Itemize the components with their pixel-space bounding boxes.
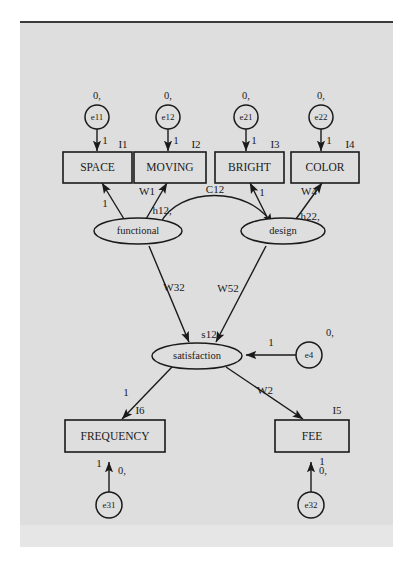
index-label-color: I4 <box>345 138 355 150</box>
edge-functional-design-covariance <box>160 196 272 225</box>
path-label-functional-to-satisfaction: W32 <box>163 281 184 293</box>
loading-label-e21: 1 <box>251 134 257 146</box>
intercept-label-design: h22, <box>300 210 320 222</box>
error-label-e12: e12 <box>162 112 175 122</box>
error-label-e4: e4 <box>305 350 314 360</box>
mean-label-e4: 0, <box>326 327 334 338</box>
index-label-moving: I2 <box>191 138 200 150</box>
mean-label-e32: 0, <box>319 465 327 476</box>
mean-label-e31: 0, <box>118 465 126 476</box>
edge-design-to-satisfaction <box>216 246 266 342</box>
latent-label-design: design <box>269 225 297 236</box>
intercept-label-functional: h12, <box>152 204 172 216</box>
loading-label-e31: 1 <box>96 457 102 469</box>
error-label-e11: e11 <box>91 112 104 122</box>
mean-label-e11: 0, <box>93 90 101 101</box>
index-label-fee: I5 <box>332 404 342 416</box>
observed-label-frequency: FREQUENCY <box>80 430 150 442</box>
observed-label-space: SPACE <box>80 161 115 173</box>
observed-label-color: COLOR <box>306 161 345 173</box>
edge-functional-to-satisfaction <box>149 246 189 342</box>
path-label-design-to-bright: 1 <box>259 186 265 198</box>
path-label-design-to-satisfaction: W52 <box>217 282 238 294</box>
page-root: SPACE MOVING BRIGHT COLOR FREQUENCY FEE … <box>0 0 414 587</box>
loading-label-e12: 1 <box>173 134 179 146</box>
error-label-e22: e22 <box>315 112 328 122</box>
observed-label-fee: FEE <box>302 430 322 442</box>
observed-label-bright: BRIGHT <box>228 161 271 173</box>
path-label-satisfaction-to-frequency: 1 <box>123 386 129 398</box>
loading-label-e11: 1 <box>102 134 108 146</box>
loading-label-e32: 1 <box>319 455 325 467</box>
index-label-space: I1 <box>118 138 127 150</box>
edge-satisfaction-to-frequency <box>122 367 172 419</box>
error-label-e21: e21 <box>240 112 253 122</box>
latent-label-functional: functional <box>117 225 160 236</box>
loading-label-e22: 1 <box>326 134 332 146</box>
error-label-e31: e31 <box>103 500 116 510</box>
mean-label-e22: 0, <box>317 90 325 101</box>
path-label-design-to-color: W4 <box>301 185 317 197</box>
index-label-bright: I3 <box>270 138 280 150</box>
mean-label-e12: 0, <box>164 90 172 101</box>
mean-label-e21: 0, <box>242 90 250 101</box>
intercept-label-satisfaction: s12 <box>201 328 216 340</box>
path-label-satisfaction-to-fee: W2 <box>257 384 273 396</box>
error-label-e32: e32 <box>305 500 318 510</box>
path-diagram: SPACE MOVING BRIGHT COLOR FREQUENCY FEE … <box>0 0 414 587</box>
path-label-functional-to-moving: W1 <box>139 185 155 197</box>
latent-label-satisfaction: satisfaction <box>173 350 222 361</box>
path-label-functional-to-space: 1 <box>102 197 108 209</box>
index-label-frequency: I6 <box>135 404 145 416</box>
loading-label-e4: 1 <box>268 336 274 348</box>
path-label-covariance-c12: C12 <box>206 183 224 195</box>
observed-label-moving: MOVING <box>146 161 193 173</box>
